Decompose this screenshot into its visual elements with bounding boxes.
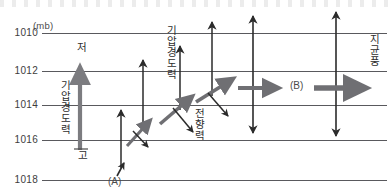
geostrophic-wind-diagram: (mb) 1010 1012 1014 1016 1018 [0, 0, 391, 194]
low-pressure-label: 저 [77, 42, 87, 53]
pgf-label-left: 기압경도력 [60, 80, 72, 135]
stage-geostrophic-arrows [314, 12, 357, 136]
coriolis-label: 전향력 [194, 108, 206, 141]
high-pressure-label: 고 [78, 150, 88, 161]
pgf-label-mid: 기압경도력 [166, 25, 178, 80]
stage-2c-arrows [196, 22, 228, 116]
stage-b-arrows [238, 16, 272, 133]
stage-2a-arrows [127, 60, 148, 147]
geostrophic-wind-label: 지균풍 [369, 34, 381, 67]
stage-a-arrows [117, 110, 124, 176]
arrow-layer [0, 0, 391, 194]
pgf-arrow-main [74, 74, 88, 150]
point-a-label: (A) [108, 176, 121, 187]
point-b-label: (B) [290, 80, 303, 91]
